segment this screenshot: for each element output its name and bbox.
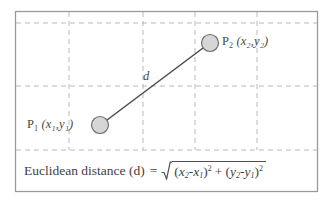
point-marker-p1	[92, 117, 109, 134]
figure-background	[0, 0, 332, 205]
point-marker-p2	[202, 35, 219, 52]
euclidean-distance-figure: P1 (x₁,y₁) P2 (x₂,y₂) d Euclidean distan…	[0, 0, 332, 205]
figure-canvas	[0, 0, 332, 205]
